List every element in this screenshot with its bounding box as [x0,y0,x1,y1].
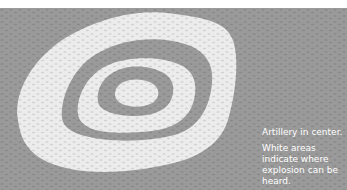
legend-caption: Artillery in center. White areas indicat… [262,127,347,190]
caption-white-areas: White areas indicate where explosion can… [262,143,347,187]
sound-zones-map: Artillery in center. White areas indicat… [0,8,347,190]
page-margin [0,0,347,8]
caption-artillery: Artillery in center. [262,127,347,138]
